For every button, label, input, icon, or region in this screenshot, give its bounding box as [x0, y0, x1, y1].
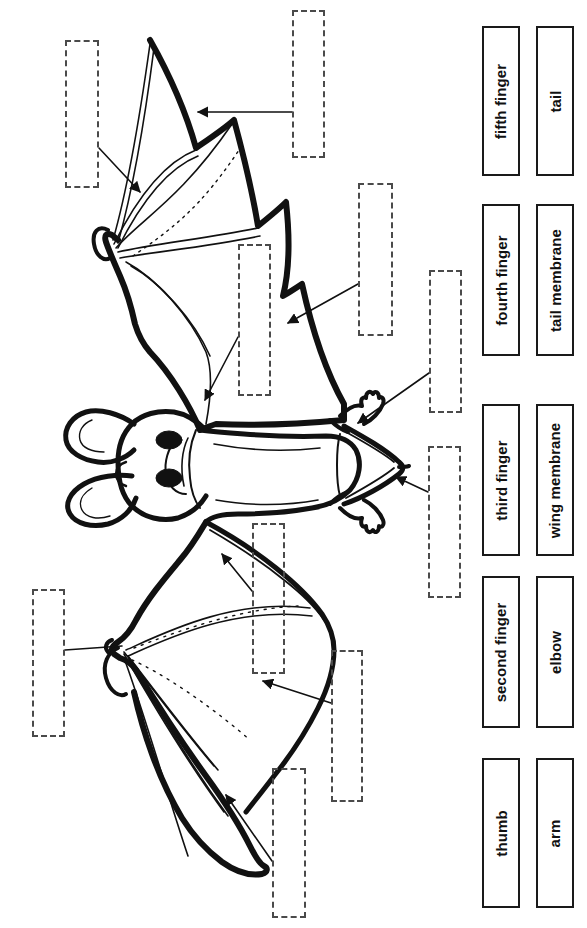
word-chip-wing-membrane[interactable]: wing membrane — [536, 404, 574, 556]
answer-box-fourth-finger[interactable] — [292, 10, 325, 158]
answer-box-elbow[interactable] — [32, 589, 65, 737]
word-chip-arm[interactable]: arm — [536, 758, 574, 908]
word-chip-elbow[interactable]: elbow — [536, 576, 574, 728]
bat-eye-lower — [156, 469, 182, 487]
answer-box-fifth-finger[interactable] — [65, 40, 99, 188]
answer-box-third-finger[interactable] — [238, 244, 271, 396]
answer-box-thumb[interactable] — [272, 768, 306, 918]
leader-line-5 — [358, 373, 429, 423]
bat-belly-line — [214, 444, 320, 450]
word-label-arm: arm — [547, 819, 562, 847]
word-label-wing-membrane: wing membrane — [548, 422, 563, 538]
bat-ear-inner-upper — [80, 420, 105, 452]
bat-ear-inner-lower — [80, 488, 110, 518]
tail-line — [399, 466, 409, 467]
word-label-fifth-finger: fifth finger — [494, 63, 509, 138]
lower-wing-finger-bone-3 — [124, 658, 188, 856]
word-chip-tail-membrane[interactable]: tail membrane — [536, 204, 574, 356]
word-label-fourth-finger: fourth finger — [494, 235, 509, 325]
bat-mouth-line — [182, 438, 188, 486]
word-chip-thumb[interactable]: thumb — [482, 758, 520, 908]
leader-line-6 — [396, 477, 428, 492]
word-bank: fifth finger fourth finger third finger … — [470, 0, 587, 928]
bat-belly-line-2 — [216, 500, 318, 505]
upper-wing-finger-bone-1b — [118, 48, 154, 243]
tail-membrane-outline — [344, 426, 403, 504]
bat-snout — [189, 430, 200, 508]
tail-membrane-edge-curve — [337, 434, 340, 496]
word-label-elbow: elbow — [548, 630, 563, 673]
lower-wing-outline — [112, 522, 267, 875]
word-label-thumb: thumb — [494, 810, 509, 856]
leader-line-7 — [222, 554, 252, 591]
bat-body-outline — [200, 430, 359, 522]
answer-box-tail-membrane[interactable] — [428, 446, 461, 598]
upper-wing-membrane-fold — [126, 262, 211, 424]
word-chip-third-finger[interactable]: third finger — [482, 404, 520, 556]
leader-line-9 — [263, 681, 331, 703]
worksheet-page: fifth finger fourth finger third finger … — [0, 0, 587, 928]
answer-box-wing-membrane[interactable] — [358, 183, 393, 336]
word-chip-second-finger[interactable]: second finger — [482, 576, 520, 728]
answer-box-tail[interactable] — [429, 270, 462, 413]
upper-wing-finger-bone-1 — [113, 44, 150, 240]
word-label-tail: tail — [547, 90, 562, 112]
word-label-second-finger: second finger — [494, 602, 509, 702]
word-chip-fourth-finger[interactable]: fourth finger — [482, 204, 520, 356]
answer-box-second-finger[interactable] — [331, 650, 363, 802]
word-label-third-finger: third finger — [494, 440, 509, 520]
leader-line-1 — [99, 148, 140, 192]
word-chip-tail[interactable]: tail — [536, 26, 574, 176]
bat-eye-upper — [156, 431, 182, 449]
word-chip-fifth-finger[interactable]: fifth finger — [482, 26, 520, 176]
word-label-tail-membrane: tail membrane — [548, 228, 563, 331]
answer-box-arm[interactable] — [252, 523, 285, 674]
lower-wing-dotted-detail — [132, 660, 250, 740]
